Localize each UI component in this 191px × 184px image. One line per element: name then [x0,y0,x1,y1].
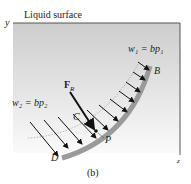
point-p-dot [94,129,98,133]
force-label: FR [64,80,74,93]
diagram-canvas [0,0,191,184]
point-c-label: C [73,112,80,122]
y-axis-label: y [5,18,9,28]
w1-label: w₁ = bp₁ [128,44,163,54]
z-axis-label: z [177,158,180,165]
point-p-label: P [105,135,111,145]
w2-label: w₂ = bp₂ [12,98,47,108]
point-d-label: D [51,153,58,163]
caption: (b) [87,168,99,178]
point-b-label: B [154,66,160,76]
surface-label: Liquid surface [24,10,82,20]
